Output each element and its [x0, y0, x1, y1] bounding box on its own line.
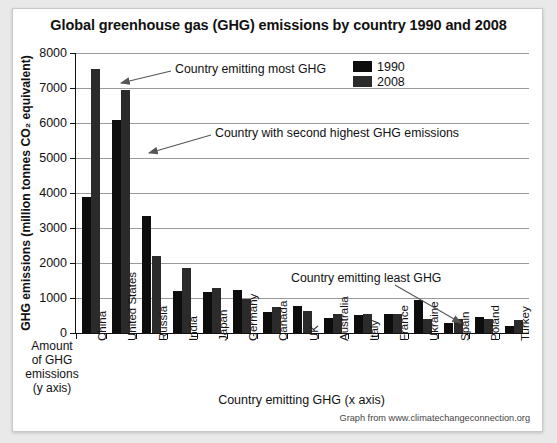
chart-title: Global greenhouse gas (GHG) emissions by…	[13, 17, 544, 33]
annotation-most-ghg: Country emitting most GHG	[175, 62, 326, 76]
y-axis-tick	[70, 228, 76, 229]
x-axis-tick	[287, 333, 288, 339]
y-axis-tick-label: 6000	[39, 116, 67, 130]
y-axis-tick-label: 3000	[39, 221, 67, 235]
gridline	[76, 53, 529, 54]
y-axis-caption: Amountof GHGemissions(y axis)	[21, 339, 83, 395]
x-axis-tick	[257, 333, 258, 339]
gridline	[76, 123, 529, 124]
x-axis-title: Country emitting GHG (x axis)	[75, 393, 528, 407]
y-axis-caption-line: Amount	[21, 339, 83, 353]
y-axis-tick	[70, 53, 76, 54]
y-axis-tick	[70, 263, 76, 264]
legend-item: 1990	[353, 59, 405, 74]
x-axis-tick	[469, 333, 470, 339]
x-axis-tick	[378, 333, 379, 339]
y-axis-tick-label: 0	[60, 326, 67, 340]
legend-item-label: 2008	[377, 75, 405, 89]
bar-china-1990	[82, 197, 91, 334]
y-axis-caption-line: (y axis)	[21, 381, 83, 395]
x-axis-tick	[318, 333, 319, 339]
x-axis-tick	[106, 333, 107, 339]
y-axis-tick-label: 2000	[39, 256, 67, 270]
bar-japan-1990	[203, 292, 212, 333]
legend-item-label: 1990	[377, 60, 405, 74]
x-axis-tick	[136, 333, 137, 339]
x-axis-category-label: Turkey	[519, 306, 531, 341]
gridline	[76, 88, 529, 89]
bar-australia-1990	[324, 318, 333, 333]
y-axis-tick	[70, 298, 76, 299]
y-axis-tick-label: 1000	[39, 291, 67, 305]
x-axis-tick	[348, 333, 349, 339]
y-axis-tick	[70, 88, 76, 89]
legend-item: 2008	[353, 74, 405, 89]
plot-area: 010002000300040005000600070008000ChinaUn…	[75, 53, 529, 334]
y-axis-title: GHG emissions (million tonnes CO₂ equiva…	[19, 53, 35, 333]
y-axis-tick	[70, 123, 76, 124]
x-axis-category-label: United States	[126, 272, 138, 341]
gridline	[76, 158, 529, 159]
y-axis-tick	[70, 158, 76, 159]
bar-turkey-1990	[505, 326, 514, 333]
bar-germany-1990	[233, 290, 242, 333]
y-axis-tick	[70, 193, 76, 194]
x-axis-tick	[499, 333, 500, 339]
gridline	[76, 193, 529, 194]
bar-france-1990	[384, 314, 393, 333]
y-axis-tick-label: 7000	[39, 81, 67, 95]
footer-credit: Graph from www.climatechangeconnection.o…	[340, 413, 530, 423]
annotation-least-ghg: Country emitting least GHG	[291, 271, 441, 285]
legend-swatch-icon	[353, 61, 372, 72]
bar-spain-1990	[444, 323, 453, 333]
x-axis-tick	[408, 333, 409, 339]
bar-canada-1990	[263, 312, 272, 333]
y-axis-caption-line: emissions	[21, 367, 83, 381]
y-axis-tick-label: 4000	[39, 186, 67, 200]
bar-china-2008	[91, 69, 100, 333]
chart-card: Global greenhouse gas (GHG) emissions by…	[12, 8, 543, 432]
annotation-second-highest-ghg: Country with second highest GHG emission…	[215, 126, 459, 140]
bar-russia-1990	[142, 216, 151, 333]
bar-uk-1990	[293, 306, 302, 333]
x-axis-tick	[438, 333, 439, 339]
bar-india-1990	[173, 291, 182, 333]
legend-swatch-icon	[353, 76, 372, 87]
x-axis-tick	[227, 333, 228, 339]
bar-poland-1990	[475, 317, 484, 333]
bar-italy-1990	[354, 315, 363, 333]
y-axis-tick-label: 8000	[39, 46, 67, 60]
bar-united-states-1990	[112, 120, 121, 334]
bar-ukraine-1990	[414, 300, 423, 333]
x-axis-tick	[197, 333, 198, 339]
x-axis-tick	[167, 333, 168, 339]
chart-legend: 19902008	[353, 59, 405, 89]
y-axis-tick-label: 5000	[39, 151, 67, 165]
y-axis-caption-line: of GHG	[21, 353, 83, 367]
